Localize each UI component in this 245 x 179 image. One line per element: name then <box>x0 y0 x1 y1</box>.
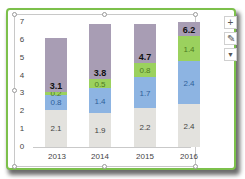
y-tick: 6 <box>17 35 27 44</box>
total-label: 4.7 <box>134 52 156 62</box>
bar-2015[interactable]: 2.21.70.84.7 <box>134 24 156 147</box>
resize-handle-bl[interactable] <box>12 164 17 169</box>
data-label: 2.1 <box>45 124 67 133</box>
y-tick: 0 <box>17 142 27 151</box>
y-tick: 2 <box>17 106 27 115</box>
y-tick: 5 <box>17 53 27 62</box>
y-tick: 7 <box>17 17 27 26</box>
total-label: 3.8 <box>89 68 111 78</box>
data-label: 2.2 <box>134 123 156 132</box>
x-axis-line <box>33 147 191 148</box>
y-tick: 3 <box>17 88 27 97</box>
x-tick: 2015 <box>130 152 160 161</box>
chart-elements-button[interactable]: + <box>224 16 237 29</box>
data-label: 0.5 <box>89 80 111 89</box>
total-label: 3.1 <box>45 81 67 91</box>
y-tick: 1 <box>17 124 27 133</box>
data-label: 0.8 <box>45 98 67 107</box>
filter-icon: ▼ <box>227 51 234 58</box>
x-tick: 2014 <box>85 152 115 161</box>
data-label: 0.8 <box>134 66 156 75</box>
resize-handle-t[interactable] <box>102 12 107 17</box>
data-label: 1.4 <box>89 97 111 106</box>
chart-styles-button[interactable]: ✎ <box>224 32 237 45</box>
resize-handle-tr[interactable] <box>193 12 198 17</box>
data-label: 1.4 <box>178 45 200 54</box>
plus-icon: + <box>228 17 234 28</box>
resize-handle-b[interactable] <box>102 164 107 169</box>
data-label: 1.7 <box>134 89 156 98</box>
data-label: 1.9 <box>89 126 111 135</box>
y-tick: 4 <box>17 71 27 80</box>
bar-2013[interactable]: 2.10.80.23.1 <box>45 38 67 147</box>
bar-2014[interactable]: 1.91.40.53.8 <box>89 24 111 147</box>
x-tick: 2013 <box>42 152 72 161</box>
data-label: 2.4 <box>178 79 200 88</box>
bar-2016[interactable]: 2.42.41.46.2 <box>178 22 200 147</box>
x-tick: 2016 <box>174 152 204 161</box>
data-label: 2.4 <box>178 122 200 131</box>
resize-handle-br[interactable] <box>193 164 198 169</box>
chart-filters-button[interactable]: ▼ <box>224 48 237 61</box>
brush-icon: ✎ <box>227 33 235 44</box>
total-label: 6.2 <box>178 25 200 35</box>
